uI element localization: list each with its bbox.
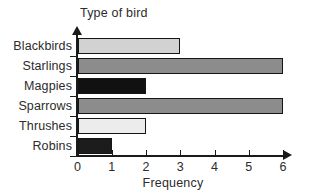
y-tick-mark — [70, 76, 76, 77]
bar-starlings — [78, 58, 284, 74]
x-axis-title-text: Frequency — [143, 176, 204, 190]
x-tick-label: 5 — [239, 160, 259, 174]
x-tick-label: 1 — [102, 160, 122, 174]
x-axis-arrow-icon — [283, 150, 292, 160]
x-tick-label: 3 — [170, 160, 190, 174]
bar-sparrows — [78, 98, 284, 114]
bar-robins — [78, 138, 112, 154]
x-axis-title: Frequency — [0, 176, 310, 190]
bar-blackbirds — [78, 38, 181, 54]
y-axis-label-thrushes: Thrushes — [19, 119, 72, 133]
y-tick-mark — [70, 56, 76, 57]
x-tick-label: 0 — [68, 160, 88, 174]
y-axis-label-robins: Robins — [32, 139, 72, 153]
x-tick-label: 2 — [136, 160, 156, 174]
y-axis-label-starlings: Starlings — [22, 59, 72, 73]
bar-thrushes — [78, 118, 147, 134]
bar-magpies — [78, 78, 147, 94]
x-tick-mark — [146, 150, 147, 156]
x-tick-label: 6 — [273, 160, 293, 174]
x-tick-label: 4 — [205, 160, 225, 174]
y-tick-mark — [70, 96, 76, 97]
x-tick-mark — [112, 150, 113, 156]
y-axis-title: Type of bird — [80, 6, 148, 20]
x-tick-mark — [283, 150, 284, 156]
y-axis-label-sparrows: Sparrows — [18, 99, 72, 113]
y-axis-arrow-icon — [72, 26, 82, 35]
y-tick-mark — [70, 156, 76, 157]
x-tick-mark — [180, 150, 181, 156]
x-tick-mark — [78, 150, 79, 156]
y-tick-mark — [70, 136, 76, 137]
x-tick-mark — [215, 150, 216, 156]
y-tick-mark — [70, 116, 76, 117]
x-tick-mark — [249, 150, 250, 156]
y-axis-label-blackbirds: Blackbirds — [13, 39, 72, 53]
y-axis-label-magpies: Magpies — [24, 79, 72, 93]
bar-chart: Type of bird BlackbirdsStarlingsMagpiesS… — [0, 0, 310, 196]
